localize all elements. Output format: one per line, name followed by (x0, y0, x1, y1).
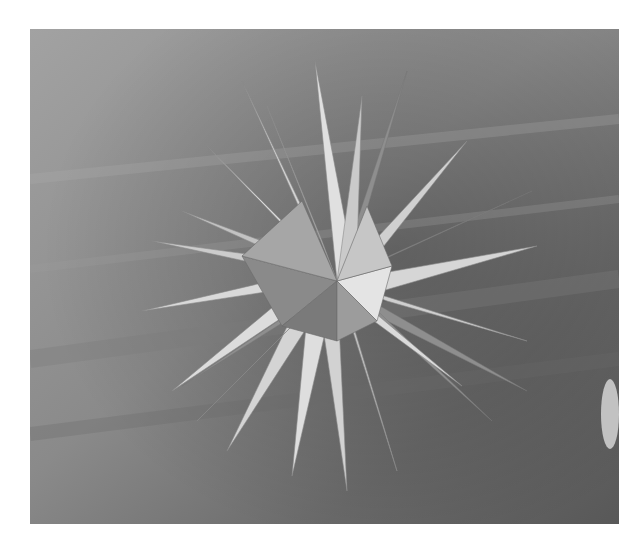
star-sculpture-illustration (30, 29, 619, 524)
light-reflection (601, 379, 619, 449)
star-photo: Grayscale photograph of a many-pointed p… (30, 29, 619, 524)
